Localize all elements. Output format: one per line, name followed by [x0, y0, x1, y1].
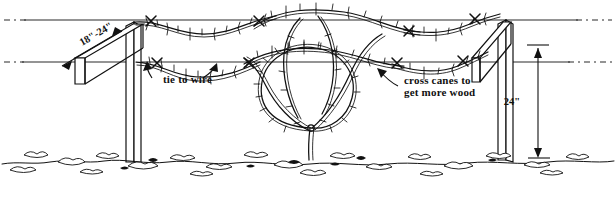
tie-to-wire-callout: tie to wire	[163, 73, 212, 85]
cane-upper-mid-arch	[254, 10, 420, 32]
post-height-dimension-arrowhead-top	[534, 48, 542, 58]
vine-cane-up-left-inner	[247, 57, 311, 128]
cane-lower-mid-arch	[244, 48, 404, 66]
grapevine-plant	[244, 16, 385, 160]
vine-trunk-inner	[313, 128, 314, 160]
cross-canes-callout-line-2: get more wood	[404, 86, 475, 98]
cross-canes-callout-line-1: cross canes to	[404, 74, 471, 86]
vine-trunk	[309, 128, 310, 160]
upper-wire-canes-group	[135, 3, 500, 41]
post-height-dimension: 24"	[504, 96, 520, 107]
vine-cane-up-left	[244, 58, 308, 130]
left-trellis-post-face-b	[134, 22, 141, 164]
soil-clods-group	[10, 152, 589, 176]
left-trellis-post-face-a	[126, 22, 134, 162]
vine-cane-cross-right	[318, 16, 334, 114]
cross-canes-callout-group: cross canes to get more wood	[377, 68, 475, 98]
right-trellis-post-face-a	[498, 20, 506, 160]
trellis-wires-group	[4, 20, 612, 62]
soil-surface-group	[2, 152, 614, 176]
vine-cane-cross-right-inner	[321, 17, 337, 115]
trellis-diagram-canvas: 18"-24" 24"	[0, 0, 616, 199]
right-post-cross-arm-end-block	[472, 58, 480, 82]
post-height-dimension-arrowhead-bottom	[534, 148, 542, 158]
right-trellis-post-face-b	[506, 20, 513, 162]
vine-main-loop-inner	[258, 44, 356, 131]
tie-to-wire-leader-right-arrowhead	[209, 63, 218, 72]
right-post-assembly	[472, 20, 513, 162]
left-post-assembly: 18"-24"	[62, 20, 143, 164]
soil-surface-line	[2, 160, 614, 165]
trellis-diagram-figure: 18"-24" 24"	[0, 0, 616, 199]
vine-cane-cross-left	[284, 18, 300, 118]
left-post-cross-arm-end-block	[75, 58, 85, 84]
cane-upper-mid-arch-inner	[254, 13, 420, 35]
